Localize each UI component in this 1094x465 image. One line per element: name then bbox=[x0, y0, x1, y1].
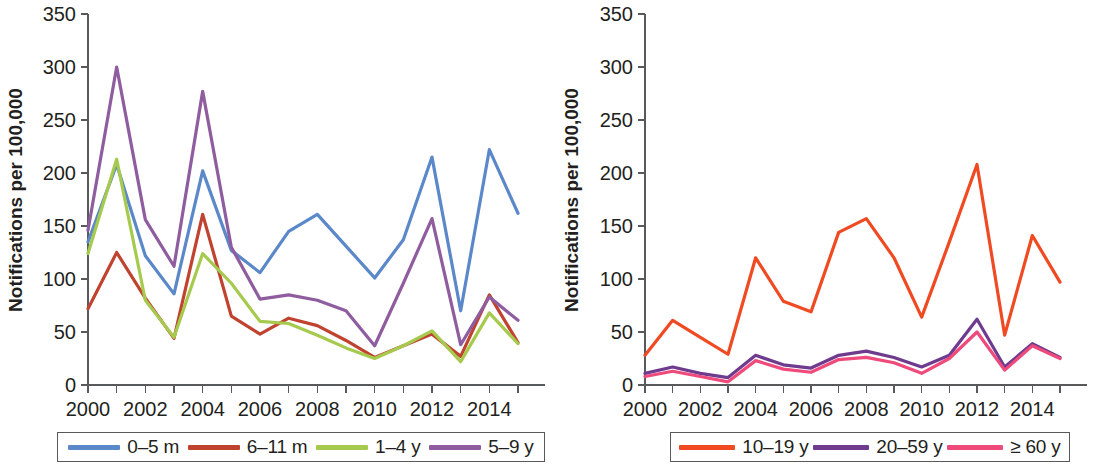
legend-color-swatch bbox=[679, 445, 735, 450]
legend-item-label: 10–19 y bbox=[742, 436, 808, 458]
y-tick-label: 250 bbox=[43, 109, 76, 131]
legend-left-item[interactable]: 1–4 y bbox=[316, 436, 420, 458]
x-tick-label: 2014 bbox=[467, 398, 512, 420]
figure-root: Notifications per 100,000 05010015020025… bbox=[0, 0, 1094, 465]
y-tick-label: 50 bbox=[54, 321, 76, 343]
legend-color-swatch bbox=[813, 445, 869, 450]
y-tick-label: 200 bbox=[43, 162, 76, 184]
x-tick-label: 2002 bbox=[123, 398, 168, 420]
x-tick-label: 2008 bbox=[295, 398, 340, 420]
series-line-20-59-y bbox=[645, 319, 1060, 377]
y-tick-label: 100 bbox=[43, 268, 76, 290]
chart-svg-right: Notifications per 100,000 05010015020025… bbox=[556, 0, 1094, 420]
y-tick-label: 200 bbox=[600, 162, 633, 184]
series-line-6-11-m bbox=[88, 214, 518, 357]
legend-left-item[interactable]: 6–11 m bbox=[188, 436, 308, 458]
x-tick-label: 2002 bbox=[678, 398, 723, 420]
series-line-1-4-y bbox=[88, 159, 518, 361]
y-tick-label: 300 bbox=[600, 56, 633, 78]
legend-item-label: ≥ 60 y bbox=[1010, 436, 1060, 458]
legend-color-swatch bbox=[68, 445, 120, 450]
y-axis-ticks-left: 050100150200250300350 bbox=[43, 3, 88, 396]
series-line-10-19-y bbox=[645, 165, 1060, 356]
y-tick-label: 0 bbox=[622, 374, 633, 396]
y-tick-label: 150 bbox=[600, 215, 633, 237]
legend-item-label: 0–5 m bbox=[127, 436, 179, 458]
y-axis-title-left: Notifications per 100,000 bbox=[5, 88, 26, 312]
x-axis-ticks-right: 20002002200420062008201020122014 bbox=[623, 385, 1060, 420]
x-tick-label: 2012 bbox=[410, 398, 455, 420]
legend-color-swatch bbox=[947, 445, 1003, 450]
chart-svg-left: Notifications per 100,000 05010015020025… bbox=[0, 0, 552, 420]
y-tick-label: 50 bbox=[611, 321, 633, 343]
series-group-right bbox=[645, 165, 1060, 382]
legend-right: 10–19 y20–59 y≥ 60 y bbox=[670, 432, 1070, 462]
y-tick-label: 150 bbox=[43, 215, 76, 237]
legend-right-item[interactable]: ≥ 60 y bbox=[947, 436, 1060, 458]
y-tick-label: 100 bbox=[600, 268, 633, 290]
x-tick-label: 2012 bbox=[955, 398, 1000, 420]
y-axis-ticks-right: 050100150200250300350 bbox=[600, 3, 645, 396]
y-tick-label: 300 bbox=[43, 56, 76, 78]
legend-color-swatch bbox=[316, 445, 368, 450]
series-line-5-9-y bbox=[88, 67, 518, 346]
x-tick-label: 2004 bbox=[733, 398, 778, 420]
y-tick-label: 250 bbox=[600, 109, 633, 131]
x-tick-label: 2000 bbox=[623, 398, 668, 420]
x-axis-ticks-left: 20002002200420062008201020122014 bbox=[66, 385, 518, 420]
series-group-left bbox=[88, 67, 518, 362]
legend-right-item[interactable]: 20–59 y bbox=[813, 436, 942, 458]
x-tick-label: 2006 bbox=[238, 398, 283, 420]
legend-left-entries: 0–5 m6–11 m1–4 y5–9 y bbox=[58, 433, 544, 461]
y-tick-label: 350 bbox=[43, 3, 76, 25]
legend-item-label: 1–4 y bbox=[375, 436, 420, 458]
y-tick-label: 0 bbox=[65, 374, 76, 396]
x-tick-label: 2000 bbox=[66, 398, 111, 420]
x-tick-label: 2008 bbox=[844, 398, 889, 420]
y-tick-label: 350 bbox=[600, 3, 633, 25]
legend-right-item[interactable]: 10–19 y bbox=[679, 436, 808, 458]
y-axis-title-right: Notifications per 100,000 bbox=[561, 88, 582, 312]
x-tick-label: 2014 bbox=[1010, 398, 1054, 420]
legend-left-item[interactable]: 0–5 m bbox=[68, 436, 179, 458]
x-tick-label: 2010 bbox=[352, 398, 397, 420]
legend-item-label: 20–59 y bbox=[876, 436, 942, 458]
legend-item-label: 5–9 y bbox=[488, 436, 533, 458]
legend-left: 0–5 m6–11 m1–4 y5–9 y bbox=[57, 432, 545, 462]
legend-left-item[interactable]: 5–9 y bbox=[429, 436, 533, 458]
legend-right-entries: 10–19 y20–59 y≥ 60 y bbox=[671, 433, 1069, 461]
legend-color-swatch bbox=[429, 445, 481, 450]
legend-color-swatch bbox=[188, 445, 240, 450]
chart-panel-right: Notifications per 100,000 05010015020025… bbox=[556, 0, 1094, 420]
legend-item-label: 6–11 m bbox=[247, 436, 308, 458]
chart-panel-left: Notifications per 100,000 05010015020025… bbox=[0, 0, 552, 420]
x-tick-label: 2006 bbox=[789, 398, 834, 420]
x-tick-label: 2004 bbox=[180, 398, 225, 420]
x-tick-label: 2010 bbox=[899, 398, 944, 420]
